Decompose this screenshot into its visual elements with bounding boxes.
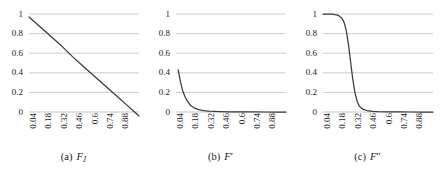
x-tick-label: 0.32	[60, 113, 69, 129]
gridlines-c	[323, 14, 433, 112]
x-tick-label: 0.88	[415, 113, 424, 129]
x-axis-labels-a: 0.04 0.18 0.32 0.46 0.6 0.74 0.88	[29, 113, 139, 147]
caption-tag: (c)	[354, 151, 366, 162]
y-axis-labels-a: 1 0.8 0.6 0.4 0.2 0	[0, 0, 26, 112]
y-axis-labels-b: 1 0.8 0.6 0.4 0.2 0	[147, 0, 173, 112]
x-tick-label: 0.74	[106, 113, 115, 129]
y-tick-label: 0.8	[306, 29, 317, 38]
x-tick-label: 0.6	[385, 113, 394, 124]
x-tick-label: 0.88	[268, 113, 277, 129]
chart-panel-a: 1 0.8 0.6 0.4 0.2 0 0.04 0.18 0.32 0.46 …	[0, 0, 147, 176]
y-tick-label: 0.6	[159, 49, 170, 58]
y-tick-label: 0.8	[159, 29, 170, 38]
x-tick-label: 0.32	[354, 113, 363, 129]
x-tick-label: 0.18	[191, 113, 200, 129]
chart-panel-c: 1 0.8 0.6 0.4 0.2 0 0.04 0.18 0.32 0.46 …	[294, 0, 441, 176]
caption-tag: (a)	[61, 151, 73, 162]
y-tick-label: 0	[166, 108, 171, 117]
y-tick-label: 0.6	[306, 49, 317, 58]
panel-caption-a: (a)FJ	[0, 151, 147, 166]
x-tick-label: 0.46	[75, 113, 84, 129]
y-tick-label: 0.2	[306, 88, 317, 97]
x-axis-labels-c: 0.04 0.18 0.32 0.46 0.6 0.74 0.88	[323, 113, 433, 147]
series-line-a	[29, 17, 139, 116]
caption-subscript: J	[83, 155, 86, 164]
y-axis-labels-c: 1 0.8 0.6 0.4 0.2 0	[294, 0, 320, 112]
series-line-c	[323, 14, 433, 112]
y-tick-label: 1	[313, 10, 318, 19]
chart-svg-c	[323, 14, 433, 112]
caption-prime: ″	[376, 151, 380, 162]
caption-prime: ′	[231, 151, 233, 162]
x-tick-label: 0.46	[369, 113, 378, 129]
series-line-b	[178, 70, 286, 112]
x-tick-label: 0.46	[222, 113, 231, 129]
x-tick-label: 0.04	[176, 113, 185, 129]
y-tick-label: 0	[19, 108, 24, 117]
y-tick-label: 1	[19, 10, 24, 19]
y-tick-label: 1	[166, 10, 171, 19]
x-axis-labels-b: 0.04 0.18 0.32 0.46 0.6 0.74 0.88	[176, 113, 286, 147]
panel-caption-b: (b)F′	[147, 151, 294, 166]
y-tick-label: 0.8	[12, 29, 23, 38]
x-tick-label: 0.18	[338, 113, 347, 129]
x-tick-label: 0.88	[121, 113, 130, 129]
panel-caption-c: (c)F″	[294, 151, 441, 166]
x-tick-label: 0.6	[91, 113, 100, 124]
plot-area-b	[176, 14, 286, 112]
x-tick-label: 0.74	[253, 113, 262, 129]
x-tick-label: 0.04	[29, 113, 38, 129]
plot-area-a	[29, 14, 139, 112]
three-panel-figure: 1 0.8 0.6 0.4 0.2 0 0.04 0.18 0.32 0.46 …	[0, 0, 441, 176]
x-tick-label: 0.18	[44, 113, 53, 129]
chart-svg-a	[29, 14, 139, 112]
x-tick-label: 0.6	[238, 113, 247, 124]
y-tick-label: 0.6	[12, 49, 23, 58]
y-tick-label: 0.2	[12, 88, 23, 97]
gridlines-b	[176, 14, 286, 112]
y-tick-label: 0.4	[306, 68, 317, 77]
chart-panel-b: 1 0.8 0.6 0.4 0.2 0 0.04 0.18 0.32 0.46 …	[147, 0, 294, 176]
chart-svg-b	[176, 14, 286, 112]
y-tick-label: 0	[313, 108, 318, 117]
y-tick-label: 0.4	[159, 68, 170, 77]
gridlines-a	[29, 14, 139, 112]
x-tick-label: 0.74	[400, 113, 409, 129]
plot-area-c	[323, 14, 433, 112]
caption-tag: (b)	[208, 151, 220, 162]
y-tick-label: 0.4	[12, 68, 23, 77]
y-tick-label: 0.2	[159, 88, 170, 97]
x-tick-label: 0.32	[207, 113, 216, 129]
x-tick-label: 0.04	[323, 113, 332, 129]
